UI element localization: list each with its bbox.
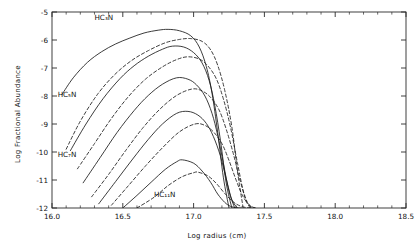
svg-text:16.5: 16.5: [115, 212, 131, 221]
curve-HC9N-dashed: [111, 124, 255, 208]
plot-canvas: 16.016.517.017.518.018.5-5-6-7-8-9-10-11…: [0, 0, 420, 250]
data-curves: [62, 29, 256, 208]
figure-container: 16.016.517.017.518.018.5-5-6-7-8-9-10-11…: [0, 0, 420, 250]
svg-text:-9: -9: [41, 120, 49, 129]
curve-annotations: HC₃NHC₅NHC₇NHC₁₁N: [58, 13, 176, 199]
svg-text:-6: -6: [41, 36, 49, 45]
curve-HC3N-solid: [62, 29, 229, 208]
svg-text:-7: -7: [41, 64, 48, 73]
label-hc7n: HC₇N: [58, 150, 77, 159]
label-hc5n: HC₅N: [58, 90, 77, 99]
curve-HC7N-solid: [83, 77, 235, 208]
svg-text:18.0: 18.0: [327, 212, 343, 221]
x-axis-title: Log radius (cm): [152, 232, 282, 240]
svg-text:-8: -8: [41, 92, 49, 101]
label-hc3n: HC₃N: [94, 13, 113, 22]
label-hc11n: HC₁₁N: [154, 190, 176, 199]
svg-text:-10: -10: [36, 148, 48, 157]
svg-text:17.0: 17.0: [186, 212, 202, 221]
svg-text:-12: -12: [36, 204, 48, 213]
svg-text:18.5: 18.5: [398, 212, 414, 221]
svg-text:16.0: 16.0: [44, 212, 60, 221]
svg-text:-11: -11: [36, 176, 48, 185]
svg-text:17.5: 17.5: [256, 212, 272, 221]
y-axis-title: Log Fractional Abundance: [14, 59, 22, 169]
svg-text:-5: -5: [41, 8, 48, 17]
